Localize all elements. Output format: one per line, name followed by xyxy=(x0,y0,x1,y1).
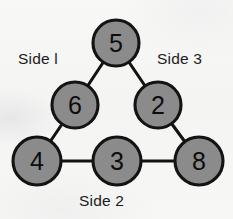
node-bottom-left[interactable]: 4 xyxy=(13,137,61,185)
node-bottom-left-label: 4 xyxy=(30,147,44,175)
node-group: 5 6 2 4 3 8 xyxy=(13,20,223,185)
node-bottom-mid-label: 3 xyxy=(110,147,124,175)
node-apex-label: 5 xyxy=(109,29,123,57)
side-2-label: Side 2 xyxy=(79,193,124,209)
node-right-middle[interactable]: 2 xyxy=(135,82,181,128)
node-bottom-right[interactable]: 8 xyxy=(175,137,223,185)
node-right-middle-label: 2 xyxy=(151,91,165,119)
node-apex[interactable]: 5 xyxy=(93,20,139,66)
node-bottom-mid[interactable]: 3 xyxy=(93,137,141,185)
triangle-graph: 5 6 2 4 3 8 xyxy=(0,0,233,219)
magic-triangle-diagram: 5 6 2 4 3 8 Side l xyxy=(0,0,233,219)
node-bottom-right-label: 8 xyxy=(192,147,206,175)
side-1-label: Side l xyxy=(18,51,58,67)
side-3-label: Side 3 xyxy=(157,51,202,67)
node-left-middle-label: 6 xyxy=(68,91,82,119)
node-left-middle[interactable]: 6 xyxy=(52,82,98,128)
